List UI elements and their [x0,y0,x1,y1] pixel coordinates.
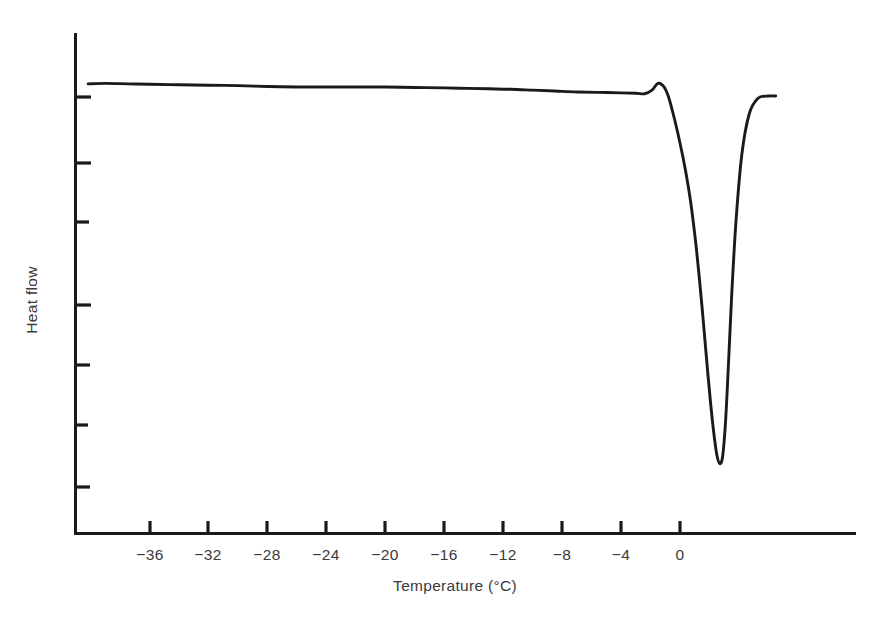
x-tick-label: −4 [612,546,630,564]
x-tick-label: −8 [553,546,571,564]
x-tick-label: −36 [136,546,164,564]
x-axis-ticks [150,521,680,533]
y-axis-ticks [75,97,91,487]
x-tick-label: 0 [675,546,684,564]
x-tick-label: −12 [489,546,517,564]
x-tick-label: −32 [194,546,222,564]
x-axis-title: Temperature (°C) [393,577,517,595]
dsc-thermogram-figure: −36−32−28−24−20−16−12−8−40 Temperature (… [0,0,878,629]
x-tick-label: −24 [312,546,340,564]
y-axis-title: Heat flow [23,266,41,333]
x-tick-label: −16 [430,546,458,564]
x-tick-label: −20 [371,546,399,564]
x-tick-label: −28 [253,546,281,564]
chart-canvas [0,0,878,629]
heat-flow-curve [88,83,776,463]
